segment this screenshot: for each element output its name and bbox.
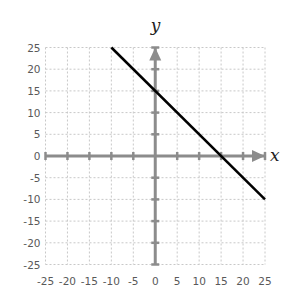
x-tick-label: 10 (192, 275, 205, 287)
y-tick-label: 5 (34, 128, 41, 140)
x-tick-label: 5 (174, 275, 181, 287)
y-tick-labels: 2520151050-5-10-15-20-25 (23, 42, 40, 271)
x-tick-label: -25 (37, 275, 54, 287)
y-tick-label: -20 (23, 237, 40, 249)
y-tick-label: -25 (23, 259, 40, 271)
x-axis-arrow-icon (252, 150, 265, 162)
x-axis-label: x (270, 145, 280, 165)
plot-line (111, 48, 265, 200)
y-tick-label: 25 (27, 42, 40, 54)
x-tick-label: 20 (236, 275, 249, 287)
x-tick-label: -20 (59, 275, 76, 287)
line-series (111, 48, 265, 200)
x-tick-label: 25 (258, 275, 271, 287)
y-axis-arrow-icon (149, 48, 161, 61)
y-axis-label: y (150, 15, 161, 35)
y-tick-label: 0 (34, 150, 41, 162)
y-tick-label: -10 (23, 193, 40, 205)
y-tick-label: -5 (30, 172, 40, 184)
coordinate-plane: 2520151050-5-10-15-20-25 -25-20-15-10-50… (0, 0, 294, 308)
axes (46, 48, 266, 265)
y-tick-label: 10 (27, 107, 40, 119)
x-tick-label: -10 (103, 275, 120, 287)
x-tick-labels: -25-20-15-10-50510152025 (37, 275, 272, 287)
x-tick-label: 15 (214, 275, 227, 287)
y-tick-label: 15 (27, 85, 40, 97)
y-tick-label: 20 (27, 63, 40, 75)
x-tick-label: -15 (81, 275, 98, 287)
x-tick-label: -5 (128, 275, 138, 287)
x-tick-label: 0 (152, 275, 159, 287)
y-tick-label: -15 (23, 215, 40, 227)
